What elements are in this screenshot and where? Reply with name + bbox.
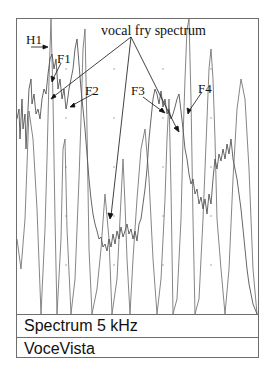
software-label: VoceVista xyxy=(17,337,258,358)
spectrum-plot: vocal fry spectrum H1 F1 F2 F3 F4 xyxy=(17,19,258,314)
arrow-fry-3-icon xyxy=(174,126,179,132)
vocal-fry-title: vocal fry spectrum xyxy=(101,23,206,39)
f4-label: F4 xyxy=(198,81,212,97)
arrow-f3-icon xyxy=(159,108,165,113)
h1-label: H1 xyxy=(26,32,42,48)
spectrum-panel: vocal fry spectrum H1 F1 F2 F3 F4 Spectr… xyxy=(16,18,259,358)
f2-label: F2 xyxy=(85,83,99,99)
arrow-fry-1-icon xyxy=(51,94,56,99)
f3-label: F3 xyxy=(131,83,145,99)
arrow-f2-icon xyxy=(70,103,75,107)
spectrum-chart xyxy=(17,19,258,314)
arrow-fry-2-icon xyxy=(108,213,113,219)
f1-label: F1 xyxy=(57,51,71,67)
spectrum-range-label: Spectrum 5 kHz xyxy=(17,314,258,337)
arrow-h1-icon xyxy=(43,45,48,49)
